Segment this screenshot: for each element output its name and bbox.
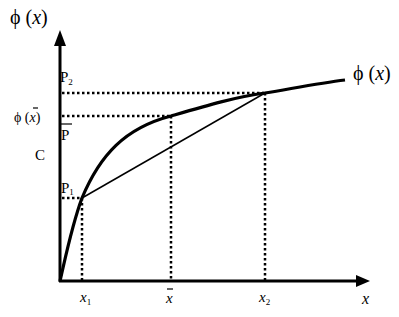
axes	[54, 30, 370, 287]
labels: ϕ (x) ϕ (x) P2 ϕ (x) P	[10, 6, 391, 307]
concave-function-diagram: ϕ (x) ϕ (x) P2 ϕ (x) P	[0, 0, 399, 317]
svg-text:P: P	[61, 127, 69, 143]
phi-xbar-label: ϕ (x)	[14, 108, 41, 126]
p2-label: P2	[60, 69, 73, 87]
svg-text:x: x	[165, 290, 173, 306]
x1-label: x1	[79, 289, 91, 307]
phi-curve	[60, 80, 345, 281]
c-label: C	[35, 147, 45, 163]
x-axis-label: x	[361, 290, 369, 307]
xbar-label: x	[165, 289, 173, 306]
curve-label: ϕ (x)	[353, 62, 391, 85]
chord-line	[82, 93, 265, 198]
y-axis-arrow-icon	[54, 30, 66, 46]
x2-label: x2	[258, 289, 270, 307]
svg-text:ϕ (x): ϕ (x)	[14, 110, 41, 126]
pbar-label: P	[61, 124, 72, 143]
y-axis-label: ϕ (x)	[10, 6, 48, 29]
x-axis-arrow-icon	[356, 275, 370, 287]
p1-label: P1	[61, 180, 74, 197]
guide-lines	[62, 93, 265, 280]
